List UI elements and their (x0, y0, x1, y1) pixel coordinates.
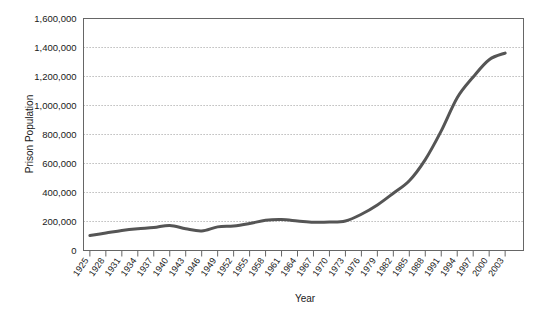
y-axis-tick-label: 400,000 (42, 187, 76, 198)
y-axis-tick-label: 800,000 (42, 129, 76, 140)
y-axis-tick-label: 1,000,000 (34, 100, 76, 111)
y-axis-title: Prison Population (24, 95, 35, 173)
y-axis-tick-label: 200,000 (42, 216, 76, 227)
prison-population-line-chart: 1,600,0001,400,0001,200,0001,000,000800,… (0, 0, 541, 316)
chart-canvas: 1,600,0001,400,0001,200,0001,000,000800,… (0, 0, 541, 316)
y-axis-tick-label: 1,200,000 (34, 71, 76, 82)
y-axis-tick-label: 0 (71, 245, 76, 256)
x-axis-title: Year (295, 293, 316, 304)
y-axis-tick-label: 600,000 (42, 158, 76, 169)
y-axis-tick-label: 1,600,000 (34, 13, 76, 24)
y-axis-tick-label: 1,400,000 (34, 42, 76, 53)
